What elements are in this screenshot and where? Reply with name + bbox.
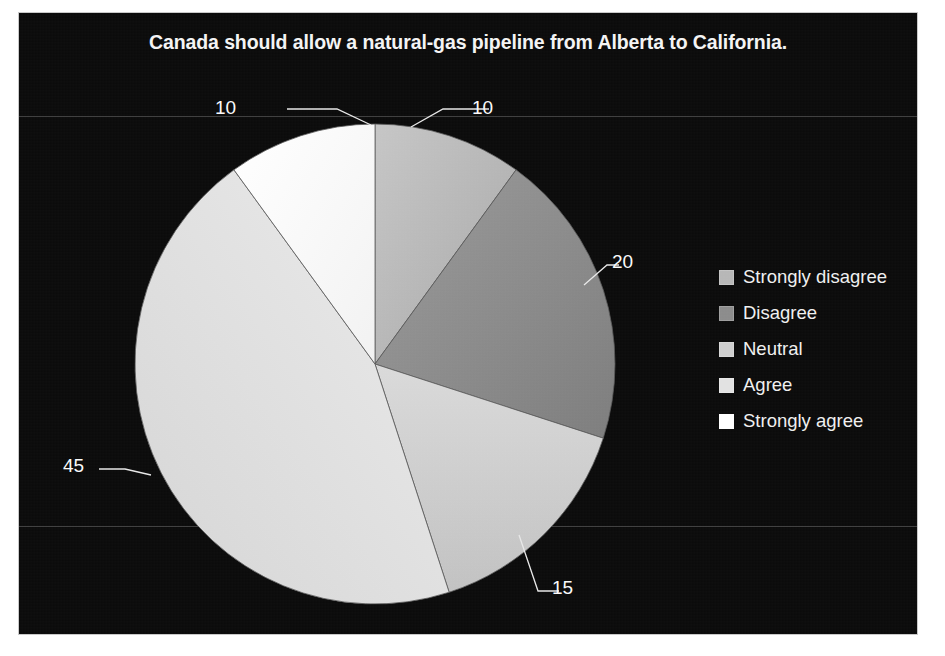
legend-swatch-icon	[719, 414, 734, 429]
leader-line-strongly-agree	[287, 109, 371, 125]
legend-item-label: Neutral	[743, 338, 803, 360]
pie-slices	[135, 124, 615, 604]
legend-item-strongly-agree[interactable]: Strongly agree	[719, 403, 909, 439]
legend-swatch-icon	[719, 306, 734, 321]
data-label-disagree: 20	[612, 251, 633, 273]
legend: Strongly disagree Disagree Neutral Agree…	[719, 259, 909, 439]
legend-item-agree[interactable]: Agree	[719, 367, 909, 403]
legend-swatch-icon	[719, 270, 734, 285]
leader-line-agree	[99, 469, 151, 475]
legend-item-neutral[interactable]: Neutral	[719, 331, 909, 367]
data-label-neutral: 15	[552, 577, 573, 599]
legend-swatch-icon	[719, 378, 734, 393]
legend-item-strongly-disagree[interactable]: Strongly disagree	[719, 259, 909, 295]
legend-item-label: Disagree	[743, 302, 817, 324]
legend-item-disagree[interactable]: Disagree	[719, 295, 909, 331]
legend-item-label: Strongly agree	[743, 410, 863, 432]
data-label-strongly-disagree: 10	[472, 97, 493, 119]
legend-swatch-icon	[719, 342, 734, 357]
legend-item-label: Strongly disagree	[743, 266, 887, 288]
data-label-agree: 45	[63, 455, 84, 477]
chart-frame: Canada should allow a natural-gas pipeli…	[18, 12, 918, 635]
legend-item-label: Agree	[743, 374, 792, 396]
data-label-strongly-agree: 10	[215, 97, 236, 119]
